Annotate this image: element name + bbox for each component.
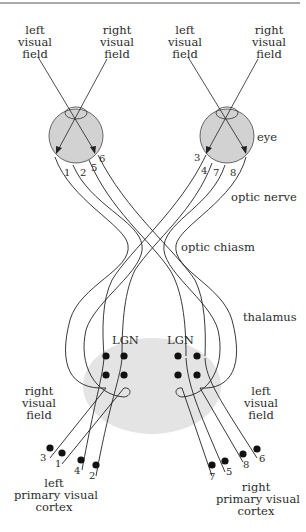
- cortex-fiber-number: 7: [209, 472, 215, 482]
- fiber-number: 2: [80, 168, 86, 178]
- label-lower-left-visual-field: left visual field: [241, 385, 281, 421]
- label-eye: eye: [257, 131, 277, 143]
- fiber-number: 7: [213, 168, 219, 178]
- label-lower-right-visual-field: right visual field: [19, 385, 59, 421]
- right-eye: [200, 109, 254, 163]
- label-right-eye-right-visual-field: right visual field: [249, 24, 289, 60]
- cortex-fiber-number: 3: [40, 453, 46, 463]
- cortex-fiber-number: 8: [243, 460, 249, 470]
- cortex-fiber-number: 4: [74, 466, 80, 476]
- fiber-number: 1: [64, 168, 70, 178]
- label-left-eye-right-visual-field: right visual field: [97, 24, 137, 60]
- fiber-number: 6: [99, 154, 105, 164]
- fiber-number: 5: [91, 163, 97, 173]
- visual-pathway-diagram: left visual field right visual field lef…: [0, 0, 306, 532]
- label-line: field: [241, 409, 281, 421]
- label-line: cortex: [216, 505, 296, 517]
- label-line: cortex: [14, 501, 94, 513]
- fiber-number: 4: [201, 166, 207, 176]
- fiber-number: 3: [194, 153, 200, 163]
- label-line: field: [164, 48, 206, 60]
- label-thalamus: thalamus: [243, 311, 297, 323]
- fiber-number: 8: [230, 168, 236, 178]
- label-left-eye-left-visual-field: left visual field: [14, 24, 56, 60]
- cortex-fiber-number: 6: [259, 454, 265, 464]
- label-right-eye-left-visual-field: left visual field: [164, 24, 206, 60]
- label-line: field: [19, 409, 59, 421]
- label-line: field: [249, 48, 289, 60]
- cortex-fiber-number: 1: [55, 459, 61, 469]
- label-lgn-right: LGN: [167, 334, 194, 346]
- label-line: field: [97, 48, 137, 60]
- label-line: field: [14, 48, 56, 60]
- cortex-fiber-number: 5: [226, 467, 232, 477]
- label-optic-chiasm: optic chiasm: [181, 241, 255, 253]
- label-left-primary-visual-cortex: left primary visual cortex: [14, 477, 94, 513]
- label-optic-nerve: optic nerve: [231, 191, 297, 203]
- label-right-primary-visual-cortex: right primary visual cortex: [216, 481, 296, 517]
- label-lgn-left: LGN: [112, 334, 139, 346]
